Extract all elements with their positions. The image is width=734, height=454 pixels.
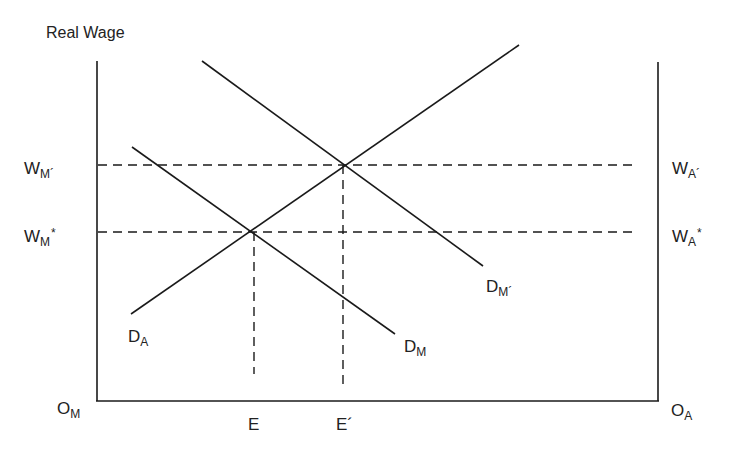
curve-label-d-a: DA <box>128 328 148 345</box>
x-label-e-prime: E´ <box>336 416 353 433</box>
origin-left: OM <box>57 400 80 417</box>
curve-d-a <box>131 45 519 314</box>
curve-label-d-m: DM <box>404 338 426 355</box>
curve-label-d-a-sub: A <box>140 335 148 349</box>
wage-label-a-star-sub: A <box>688 235 696 249</box>
wage-label-a-star-sup: * <box>697 226 702 240</box>
curve-d-m <box>132 147 395 334</box>
origin-right-main: O <box>671 401 684 420</box>
wage-label-m-star-sup: * <box>51 226 56 240</box>
wage-label-m-prime: WM´ <box>24 160 54 177</box>
wage-label-a-star: WA* <box>672 227 702 245</box>
curve-label-d-m-prime-main: D <box>486 277 498 296</box>
wage-label-m-star: WM* <box>24 227 56 245</box>
labor-market-diagram <box>0 0 734 454</box>
wage-label-m-star-sub: M <box>40 235 50 249</box>
wage-label-a-prime-main: W <box>672 159 688 178</box>
x-label-e: E <box>248 416 259 433</box>
wage-label-m-prime-main: W <box>24 159 40 178</box>
wage-label-a-prime-sub: A´ <box>688 167 700 181</box>
curve-label-d-a-main: D <box>128 327 140 346</box>
curve-label-d-m-prime: DM´ <box>486 278 512 295</box>
curve-label-d-m-sub: M <box>416 345 426 359</box>
curve-label-d-m-main: D <box>404 337 416 356</box>
origin-left-sub: M <box>70 407 80 421</box>
y-axis-title: Real Wage <box>46 25 125 41</box>
wage-label-m-prime-sub: M´ <box>40 167 54 181</box>
wage-label-m-star-main: W <box>24 227 40 246</box>
origin-right: OA <box>671 402 692 419</box>
wage-label-a-prime: WA´ <box>672 160 700 177</box>
origin-right-sub: A <box>684 409 692 423</box>
wage-label-a-star-main: W <box>672 227 688 246</box>
origin-left-main: O <box>57 399 70 418</box>
curve-label-d-m-prime-sub: M´ <box>498 285 512 299</box>
